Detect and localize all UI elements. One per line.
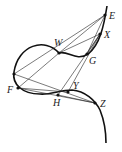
- label-F: F: [6, 84, 14, 95]
- point-X: [98, 32, 101, 35]
- label-H: H: [52, 97, 61, 108]
- chord-E-W: [59, 15, 105, 53]
- label-X: X: [103, 29, 111, 40]
- point-unlabeled: [12, 72, 15, 75]
- label-Y: Y: [73, 80, 80, 91]
- curve-diagram: EXWGFHYZ: [0, 0, 122, 152]
- label-Z: Z: [100, 98, 106, 109]
- point-W: [57, 51, 60, 54]
- point-Y: [66, 90, 69, 93]
- point-Z: [93, 101, 96, 104]
- point-E: [103, 13, 106, 16]
- point-labels: EXWGFHYZ: [6, 10, 115, 109]
- main-curve: [14, 6, 107, 143]
- point-F: [16, 86, 19, 89]
- label-G: G: [89, 55, 96, 66]
- label-E: E: [108, 10, 115, 21]
